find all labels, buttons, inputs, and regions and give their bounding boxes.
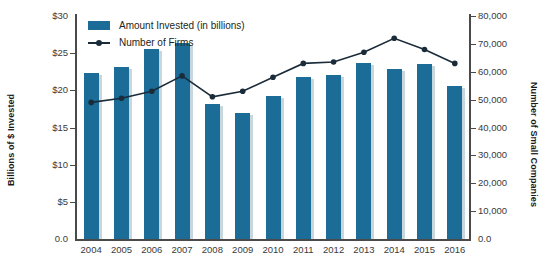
- bar: [205, 104, 220, 239]
- left-tick-label: $15: [28, 122, 68, 133]
- bar-shadow: [432, 66, 435, 239]
- right-tick-mark: [470, 72, 476, 73]
- bar-shadow: [311, 79, 314, 239]
- legend-label-amount-invested: Amount Invested (in billions): [119, 20, 245, 31]
- right-tick-label: 20,000: [478, 177, 507, 188]
- bar-shadow: [281, 98, 284, 239]
- legend-label-number-of-firms: Number of Firms: [119, 37, 193, 48]
- bar: [356, 63, 371, 239]
- bar-shadow: [341, 77, 344, 239]
- bar: [144, 49, 159, 239]
- right-tick-label: 30,000: [478, 149, 507, 160]
- right-axis-title: Number of Small Companies: [525, 52, 539, 237]
- chart-container: Billions of $ Invested Number of Small C…: [0, 0, 542, 273]
- left-axis-title: Billions of $ Invested: [6, 60, 20, 220]
- right-tick-mark: [470, 183, 476, 184]
- left-tick-label: $30: [28, 10, 68, 21]
- chart-legend: Amount Invested (in billions) Number of …: [88, 18, 245, 52]
- right-tick-label: 70,000: [478, 38, 507, 49]
- left-tick-label: 0.0: [28, 233, 68, 244]
- bar-shadow: [159, 51, 162, 239]
- bar: [266, 96, 281, 239]
- bar: [326, 75, 341, 239]
- right-tick-mark: [470, 211, 476, 212]
- right-tick-mark: [470, 155, 476, 156]
- right-tick-label: 80,000: [478, 10, 507, 21]
- bar: [296, 77, 311, 239]
- bar: [387, 69, 402, 239]
- left-tick-label: $20: [28, 84, 68, 95]
- bar: [84, 73, 99, 240]
- left-tick-label: $25: [28, 47, 68, 58]
- bar: [417, 64, 432, 239]
- right-tick-mark: [470, 128, 476, 129]
- right-tick-label: 0.0: [478, 233, 491, 244]
- bar-shadow: [129, 69, 132, 239]
- x-axis-line: [75, 239, 471, 241]
- bar: [235, 113, 250, 239]
- line-marker-icon: [88, 38, 110, 47]
- right-tick-mark: [470, 44, 476, 45]
- right-tick-mark: [470, 100, 476, 101]
- right-tick-label: 60,000: [478, 66, 507, 77]
- legend-item-number-of-firms: Number of Firms: [88, 35, 245, 50]
- bar-shadow: [371, 65, 374, 239]
- bar-shadow: [99, 75, 102, 240]
- bar-shadow: [250, 115, 253, 239]
- x-tick-label: 2016: [437, 244, 473, 255]
- right-tick-mark: [470, 16, 476, 17]
- right-tick-label: 40,000: [478, 122, 507, 133]
- legend-item-amount-invested: Amount Invested (in billions): [88, 18, 245, 33]
- bar-shadow: [462, 88, 465, 239]
- left-tick-label: $10: [28, 159, 68, 170]
- bar: [447, 86, 462, 239]
- right-tick-label: 10,000: [478, 205, 507, 216]
- bar: [114, 67, 129, 239]
- left-tick-label: $5: [28, 196, 68, 207]
- bar-shadow: [190, 45, 193, 239]
- bar-shadow: [220, 106, 223, 239]
- bar: [175, 43, 190, 239]
- bar-shadow: [402, 71, 405, 239]
- right-tick-label: 50,000: [478, 94, 507, 105]
- bar-swatch-icon: [88, 21, 110, 30]
